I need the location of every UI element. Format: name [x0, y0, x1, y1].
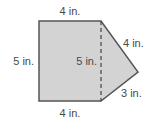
- label-triangle-lower: 3 in.: [121, 87, 142, 99]
- label-dashed-height: 5 in.: [76, 55, 97, 67]
- composite-figure: 4 in. 5 in. 4 in. 5 in. 4 in. 3 in.: [0, 0, 150, 124]
- label-left: 5 in.: [13, 55, 34, 67]
- label-triangle-upper: 4 in.: [123, 37, 144, 49]
- label-bottom: 4 in.: [60, 107, 81, 119]
- label-top: 4 in.: [60, 5, 81, 17]
